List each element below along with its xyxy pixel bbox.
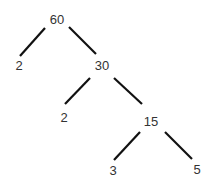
edge-15-5 (165, 132, 192, 159)
edge-60-30 (69, 27, 96, 54)
factor-tree-diagram: 60 2 30 2 15 3 5 (0, 0, 211, 185)
edge-30-2 (65, 78, 90, 104)
node-15: 15 (144, 115, 158, 128)
node-30: 30 (95, 59, 109, 72)
node-60: 60 (50, 13, 64, 26)
node-2-left: 2 (15, 59, 22, 72)
node-3: 3 (109, 164, 116, 177)
edge-60-2 (20, 28, 45, 56)
edge-30-15 (114, 78, 142, 104)
tree-edges (0, 0, 211, 185)
node-2-middle: 2 (60, 111, 67, 124)
edge-15-3 (114, 132, 140, 160)
node-5: 5 (193, 163, 200, 176)
